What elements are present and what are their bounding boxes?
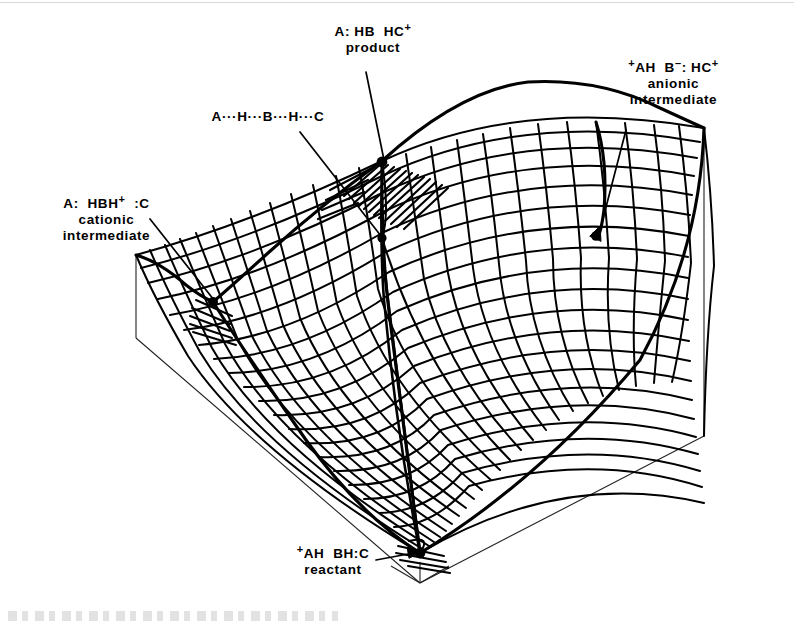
label-anionic-caption-2: intermediate [566,92,781,108]
label-cationic-caption-2: intermediate [14,228,199,244]
label-reactant-caption: reactant [248,562,418,578]
label-product: A: HB HC+ product [283,24,463,56]
label-transition-state: A···H···B···H···C [163,109,373,125]
label-cationic-intermediate: A: HBH+ :C cationic intermediate [14,196,199,244]
label-reactant-formula: +AH BH:C [248,546,418,562]
potential-energy-surface-figure: A: HB HC+ product A···H···B···H···C +AH … [0,0,794,634]
label-reactant: +AH BH:C reactant [248,546,418,578]
leader-ts [300,132,381,236]
critical-point-product [377,157,388,168]
label-cationic-caption-1: cationic [14,212,199,228]
critical-point-transition-state [377,233,386,242]
label-transition-state-formula: A···H···B···H···C [163,109,373,125]
label-cationic-formula: A: HBH+ :C [14,196,199,212]
label-anionic-intermediate: +AH B–: HC+ anionic intermediate [566,60,781,108]
label-product-caption: product [283,40,463,56]
label-anionic-formula: +AH B–: HC+ [566,60,781,76]
surface-silhouette-edges [136,82,704,553]
label-anionic-caption-1: anionic [566,76,781,92]
critical-point-markers [208,157,601,559]
label-product-formula: A: HB HC+ [283,24,463,40]
